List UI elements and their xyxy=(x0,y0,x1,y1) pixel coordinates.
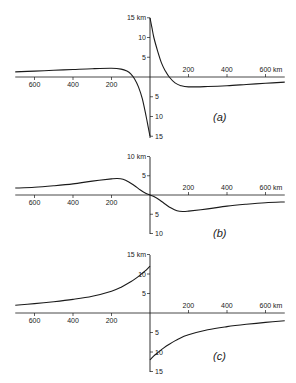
x-tick-label: 600 xyxy=(29,81,41,88)
x-tick-label: 600 xyxy=(29,199,41,206)
x-tick-label: 600 km xyxy=(260,184,283,191)
x-tick-label: 600 km xyxy=(260,302,283,309)
x-tick-label: 400 xyxy=(221,184,233,191)
x-tick-label: 200 xyxy=(183,66,195,73)
x-tick-label: 600 xyxy=(29,317,41,324)
panel-label: (a) xyxy=(213,111,227,123)
y-tick-label: 15 xyxy=(155,368,163,375)
y-tick-label: 5 xyxy=(142,290,146,297)
y-tick-label: 15 km xyxy=(127,251,146,258)
panel-label: (b) xyxy=(213,227,227,239)
y-tick-label: 5 xyxy=(155,211,159,218)
y-tick-label: 15 xyxy=(155,133,163,140)
y-tick-label: 5 xyxy=(142,172,146,179)
data-curve xyxy=(15,68,150,136)
panel-b: 600400200200400600 km510 km510(b) xyxy=(15,153,285,239)
y-tick-label: 10 km xyxy=(127,153,146,160)
y-tick-label: 15 km xyxy=(127,14,146,21)
figure-canvas: 600400200200400600 km51015 km51015(a) 60… xyxy=(0,0,296,383)
x-tick-label: 400 xyxy=(67,317,79,324)
x-tick-label: 400 xyxy=(221,66,233,73)
x-tick-label: 200 xyxy=(106,81,118,88)
x-tick-label: 600 km xyxy=(260,66,283,73)
y-tick-label: 10 xyxy=(155,113,163,120)
x-tick-label: 200 xyxy=(106,199,118,206)
y-tick-label: 10 xyxy=(155,230,163,237)
y-tick-label: 5 xyxy=(155,329,159,336)
panel-label: (c) xyxy=(213,350,226,362)
data-curve xyxy=(150,18,285,87)
y-tick-label: 10 xyxy=(138,34,146,41)
x-tick-label: 200 xyxy=(183,302,195,309)
x-tick-label: 400 xyxy=(67,81,79,88)
x-tick-label: 400 xyxy=(221,302,233,309)
x-tick-label: 200 xyxy=(106,317,118,324)
x-tick-label: 400 xyxy=(67,199,79,206)
panel-a: 600400200200400600 km51015 km51015(a) xyxy=(15,14,285,140)
x-tick-label: 200 xyxy=(183,184,195,191)
panel-c: 600400200200400600 km51015 km51015(c) xyxy=(15,251,285,375)
data-curve xyxy=(15,266,150,305)
y-tick-label: 5 xyxy=(155,93,159,100)
y-tick-label: 5 xyxy=(142,54,146,61)
